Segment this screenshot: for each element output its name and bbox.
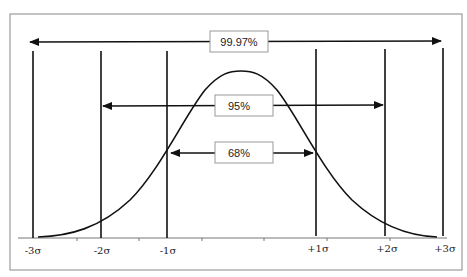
label-box-68: 68% bbox=[215, 142, 273, 163]
range-label-68: 68% bbox=[228, 147, 250, 159]
label-box-9997: 99.97% bbox=[210, 31, 268, 52]
tick-label-plus1: +1σ bbox=[307, 243, 329, 254]
label-box-95: 95% bbox=[215, 95, 273, 116]
tick-label-plus3: +3σ bbox=[434, 243, 456, 254]
range-label-95: 95% bbox=[228, 100, 250, 112]
tick-label-minus3: -3σ bbox=[25, 245, 42, 256]
range-label-9997: 99.97% bbox=[220, 36, 258, 48]
normal-distribution-diagram: 99.97% 95% 68% -3σ -2σ -1σ +1σ +2σ +3σ bbox=[0, 0, 467, 277]
tick-label-plus2: +2σ bbox=[376, 243, 398, 254]
tick-label-minus1: -1σ bbox=[160, 245, 177, 256]
sigma-tick-labels: -3σ -2σ -1σ +1σ +2σ +3σ bbox=[25, 243, 456, 256]
tick-label-minus2: -2σ bbox=[94, 245, 111, 256]
